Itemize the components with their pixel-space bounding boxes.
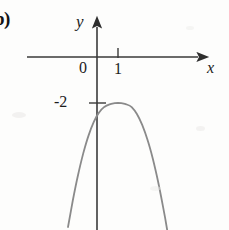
x-tick-label-1: 1 [114,61,122,77]
y-tick-label-neg-2: -2 [54,94,67,110]
origin-tick-label: 0 [79,60,87,76]
x-axis-label: x [207,60,214,76]
parabola-curve [68,103,167,230]
parabola-plot [0,0,229,230]
figure-container: b) y x 0 1 -2 [0,0,229,230]
y-axis-label: y [76,13,84,30]
